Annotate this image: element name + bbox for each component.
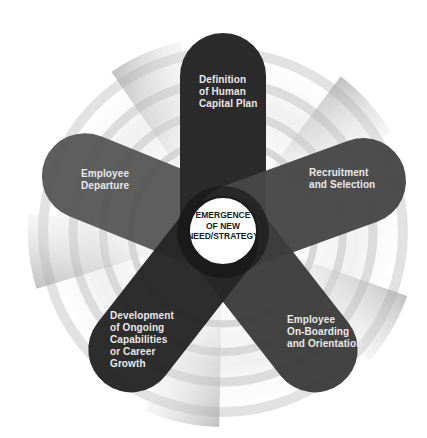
petal-label-development-growth: Development of Ongoing Capabilities or C… [110, 310, 174, 370]
petal-label-onboarding-orientation: Employee On-Boarding and Orientation [287, 314, 362, 350]
petal-label-employee-departure: Employee Departure [81, 168, 129, 192]
center-label: EMERGENCE OF NEW NEED/STRATEGY [183, 210, 263, 242]
petal-label-recruitment-selection: Recruitment and Selection [309, 167, 375, 191]
petal-label-human-capital-plan: Definition of Human Capital Plan [199, 74, 257, 110]
